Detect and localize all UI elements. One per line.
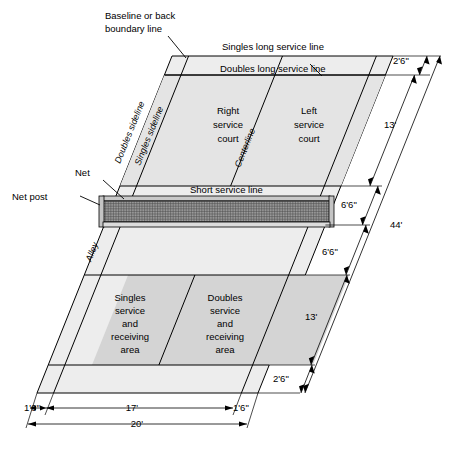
left-service-court-line-1: service [294,119,324,130]
dim-label-bottom-back-alley: 2'6" [273,373,289,384]
net-bottom-band [103,222,330,227]
baseline-label-line1: Baseline or back [105,10,175,21]
dim-label-upper-half-short: 6'6" [341,199,357,210]
net-label: Net [75,167,90,178]
baseline-leader [168,36,186,58]
dim-label-lower-half-short: 6'6" [322,246,338,257]
short-service-line-label: Short service line [190,184,263,195]
dim-upper-half-short [360,186,381,225]
doubles-receiving-line-2: and [217,318,233,329]
net-post-leader [80,196,100,205]
baseline-label-line2: boundary line [105,23,162,34]
dim-label-right-alley-width: 1'6" [233,402,249,413]
dim-label-singles-width: 17' [126,402,139,413]
left-service-court-line-2: court [298,133,319,144]
singles-receiving-line-2: and [122,318,138,329]
dim-top-back-alley [417,56,430,75]
court-svg: 2'6" 13' 6'6" 6'6" 13' 2'6" 44' [0,0,463,449]
left-service-court-line-0: Left [301,105,317,116]
net-post-label: Net post [12,191,48,202]
dim-label-bottom-half-court: 13' [305,311,318,322]
dim-singles-width [46,405,233,410]
doubles-receiving-line-0: Doubles [208,292,243,303]
dim-label-full-length: 44' [390,219,403,230]
doubles-receiving-line-1: service [210,305,240,316]
right-service-court-line-2: court [217,133,238,144]
singles-receiving-line-0: Singles [114,292,145,303]
doubles-receiving-line-4: area [215,344,235,355]
dim-label-top-back-alley: 2'6" [393,55,409,66]
badminton-court-diagram: 2'6" 13' 6'6" 6'6" 13' 2'6" 44' [0,0,463,449]
dim-label-doubles-width: 20' [131,418,144,429]
singles-receiving-line-4: area [120,344,140,355]
doubles-long-service-line-label: Doubles long service line [220,63,326,74]
doubles-receiving-line-3: receiving [206,331,244,342]
dim-lower-half-short [344,225,369,275]
singles-long-service-line-label: Singles long service line [222,41,324,52]
dim-label-top-half-court: 13' [384,119,397,130]
net-band-top [103,196,330,201]
right-service-court-line-1: service [213,119,243,130]
singles-receiving-line-3: receiving [111,331,149,342]
right-service-court-label: Right service court [213,105,243,144]
right-service-court-line-0: Right [217,105,240,116]
singles-receiving-line-1: service [115,305,145,316]
